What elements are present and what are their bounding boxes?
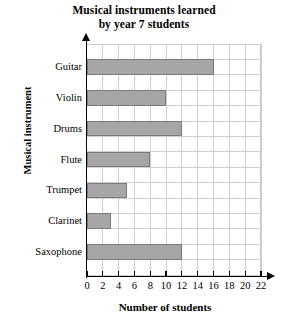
gridline-horizontal [87, 213, 261, 214]
x-axis-tick [213, 271, 214, 277]
x-axis-tick-label: 22 [249, 279, 273, 292]
x-axis-tick [181, 271, 182, 277]
x-axis-tick [165, 271, 166, 277]
bar-guitar [87, 59, 214, 74]
x-axis-tick [118, 271, 119, 277]
gridline-vertical [213, 44, 214, 275]
chart-title-line-2: by year 7 students [0, 17, 288, 31]
gridline-vertical [261, 44, 262, 275]
gridline-vertical [229, 44, 230, 275]
x-axis-tick [245, 271, 246, 277]
bar-drums [87, 121, 182, 136]
bar-clarinet [87, 213, 111, 228]
x-axis-tick [229, 271, 230, 277]
gridline-horizontal [87, 228, 261, 229]
bar-trumpet [87, 183, 127, 198]
gridline-vertical [166, 44, 167, 275]
bar-violin [87, 90, 166, 105]
x-axis-tick [197, 271, 198, 277]
x-axis-tick [260, 271, 261, 277]
y-axis-label-trumpet: Trumpet [0, 183, 82, 196]
chart-title: Musical instruments learned by year 7 st… [0, 3, 288, 31]
y-axis-label-violin: Violin [0, 91, 82, 104]
chart-title-line-1: Musical instruments learned [0, 3, 288, 17]
y-axis-label-drums: Drums [0, 122, 82, 135]
gridline-horizontal [87, 44, 261, 45]
gridline-vertical [197, 44, 198, 275]
x-axis-line [86, 276, 268, 277]
plot-area [87, 44, 261, 275]
gridline-vertical [181, 44, 182, 275]
x-axis-tick [150, 271, 151, 277]
bar-flute [87, 152, 150, 167]
x-axis-title: Number of students [60, 301, 270, 313]
y-axis-label-clarinet: Clarinet [0, 214, 82, 227]
gridline-vertical [245, 44, 246, 275]
bar-chart: Musical instruments learned by year 7 st… [0, 0, 288, 323]
bar-saxophone [87, 244, 182, 259]
y-axis-label-guitar: Guitar [0, 60, 82, 73]
y-axis-label-saxophone: Saxophone [0, 245, 82, 258]
y-axis-label-flute: Flute [0, 153, 82, 166]
y-axis-line [86, 40, 87, 278]
x-axis-tick [102, 271, 103, 277]
y-axis-arrow-icon [82, 33, 90, 41]
x-axis-tick [134, 271, 135, 277]
x-axis-tick [86, 271, 87, 277]
